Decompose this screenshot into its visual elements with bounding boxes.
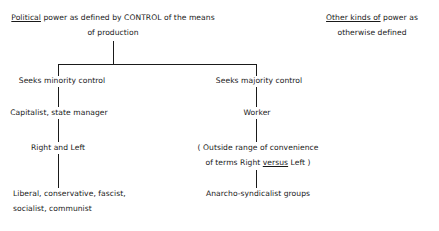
node-anarcho-syndicalist-groups: Anarcho-syndicalist groups	[206, 189, 310, 199]
root-title-line2: of production	[87, 28, 138, 38]
other-power-line1: Other kinds of power as	[326, 13, 418, 23]
branch-bar-line	[58, 64, 257, 65]
root-title-rest: power as defined by CONTROL of the means	[41, 13, 215, 22]
left-connector-3	[58, 154, 59, 188]
node-capitalist-state-manager: Capitalist, state manager	[10, 108, 108, 118]
right-connector-3	[256, 170, 257, 188]
right-connector-1	[256, 87, 257, 107]
other-power-underlined: Other kinds of	[326, 13, 381, 22]
root-title-line1: Political power as defined by CONTROL of…	[11, 13, 214, 23]
node-worker: Worker	[243, 108, 270, 118]
left-connector-2	[58, 119, 59, 142]
node-political-ideologies-line1: Liberal, conservative, fascist,	[13, 189, 126, 199]
outside-range-text-a: of terms Right	[205, 158, 262, 167]
right-connector-2	[256, 119, 257, 142]
node-right-and-left: Right and Left	[31, 143, 85, 153]
left-drop-line	[58, 64, 59, 76]
right-drop-line	[256, 64, 257, 76]
root-title-underlined: Political	[11, 13, 41, 22]
root-stem-line	[113, 41, 114, 65]
other-power-rest: power as	[381, 13, 418, 22]
left-connector-1	[58, 87, 59, 107]
node-seeks-majority-control: Seeks majority control	[216, 76, 302, 86]
node-outside-range-line2: of terms Right versus Left )	[205, 158, 310, 168]
other-power-line2: otherwise defined	[337, 28, 406, 38]
versus-underlined: versus	[263, 158, 288, 167]
node-outside-range-line1: ( Outside range of convenience	[198, 143, 319, 153]
node-political-ideologies-line2: socialist, communist	[13, 204, 92, 214]
outside-range-text-b: Left )	[288, 158, 310, 167]
node-seeks-minority-control: Seeks minority control	[19, 76, 105, 86]
